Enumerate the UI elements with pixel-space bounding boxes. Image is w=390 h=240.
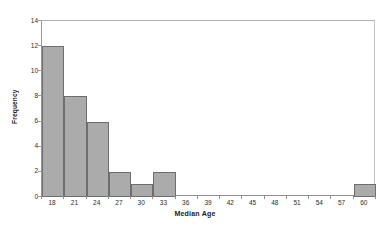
bar-27 — [109, 172, 131, 197]
x-tick-mark-39 — [197, 196, 198, 199]
x-tick-mark-60 — [353, 196, 354, 199]
x-tick-label-24: 24 — [87, 199, 107, 207]
x-tick-label-48: 48 — [265, 199, 285, 207]
x-tick-label-18: 18 — [42, 199, 62, 207]
bar-24 — [87, 122, 109, 197]
x-tick-mark-51 — [286, 196, 287, 199]
x-tick-mark-57 — [330, 196, 331, 199]
x-tick-label-27: 27 — [109, 199, 129, 207]
y-tick-label-6: 6 — [24, 117, 38, 124]
x-tick-label-36: 36 — [176, 199, 196, 207]
bar-18 — [42, 46, 64, 197]
x-tick-label-60: 60 — [354, 199, 374, 207]
bar-21 — [64, 96, 86, 197]
x-tick-label-39: 39 — [198, 199, 218, 207]
x-tick-mark-36 — [175, 196, 176, 199]
x-tick-mark-42 — [219, 196, 220, 199]
x-tick-label-42: 42 — [220, 199, 240, 207]
y-tick-label-12: 12 — [24, 42, 38, 49]
x-tick-mark-33 — [152, 196, 153, 199]
x-tick-mark-24 — [86, 196, 87, 199]
x-tick-label-30: 30 — [131, 199, 151, 207]
x-axis-title: Median Age — [0, 210, 390, 217]
histogram-chart: Frequency 02468101214 182124273033363942… — [0, 0, 390, 240]
y-tick-label-0: 0 — [24, 193, 38, 200]
y-tick-label-10: 10 — [24, 67, 38, 74]
y-axis-title: Frequency — [8, 72, 22, 142]
x-tick-mark-18 — [41, 196, 42, 199]
y-tick-label-8: 8 — [24, 92, 38, 99]
x-tick-mark-30 — [130, 196, 131, 199]
y-tick-label-4: 4 — [24, 142, 38, 149]
plot-area — [41, 20, 375, 196]
x-tick-mark-45 — [241, 196, 242, 199]
x-tick-mark-48 — [264, 196, 265, 199]
x-tick-label-21: 21 — [64, 199, 84, 207]
y-tick-label-14: 14 — [24, 17, 38, 24]
bar-33 — [153, 172, 175, 197]
x-tick-label-45: 45 — [243, 199, 263, 207]
y-tick-label-2: 2 — [24, 167, 38, 174]
x-tick-mark-21 — [63, 196, 64, 199]
x-tick-mark-27 — [108, 196, 109, 199]
bar-30 — [131, 184, 153, 197]
x-tick-label-51: 51 — [287, 199, 307, 207]
x-tick-label-54: 54 — [309, 199, 329, 207]
x-tick-label-57: 57 — [332, 199, 352, 207]
bar-60 — [354, 184, 376, 197]
x-tick-label-33: 33 — [153, 199, 173, 207]
x-tick-mark-end — [375, 196, 376, 199]
x-tick-mark-54 — [308, 196, 309, 199]
